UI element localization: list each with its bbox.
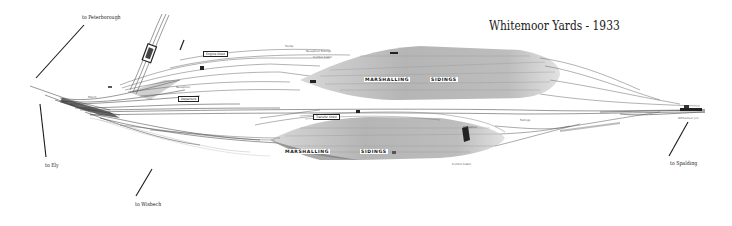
reception-lower-right-label: Reception bbox=[463, 125, 477, 129]
up-yard-east-fan bbox=[540, 58, 700, 106]
wisbech-leader-line bbox=[136, 169, 152, 196]
destination-peterborough: to Peterborough bbox=[82, 14, 121, 20]
track-diagram bbox=[0, 0, 732, 226]
destination-wisbech: to Wisbech bbox=[135, 201, 161, 207]
whitemoor-junction-label: Whitemoor Jcn bbox=[678, 116, 698, 120]
down-sidings-label: SIDINGS bbox=[360, 149, 388, 154]
building-mark bbox=[390, 52, 398, 54]
destination-spalding: to Spalding bbox=[670, 160, 697, 166]
building-mark bbox=[200, 66, 204, 70]
building-mark bbox=[392, 151, 396, 154]
building-mark bbox=[356, 110, 360, 113]
march-station-label: March bbox=[88, 95, 97, 99]
map-title: Whitemoor Yards - 1933 bbox=[489, 18, 620, 33]
control-cabin-lower-label: Control Cabin bbox=[452, 162, 471, 166]
spalding-leader-line bbox=[669, 122, 688, 156]
control-cabin-label: Control Cabin bbox=[313, 55, 332, 59]
up-marshalling-label: MARSHALLING bbox=[364, 77, 410, 82]
ely-leader-line bbox=[40, 104, 46, 157]
signal-box-east bbox=[680, 108, 702, 111]
departure-box: Departure bbox=[178, 96, 199, 102]
up-sidings-label: SIDINGS bbox=[430, 77, 458, 82]
engine-shed-upper: Engine Shed bbox=[203, 51, 228, 57]
hump-label: Hump bbox=[285, 44, 293, 48]
destination-ely: to Ely bbox=[45, 162, 59, 168]
reception-sidings-label: Reception Sidings bbox=[306, 49, 331, 53]
peterborough-leader-line bbox=[36, 25, 84, 78]
building-mark bbox=[310, 80, 316, 83]
up-marshalling-yard bbox=[300, 46, 560, 100]
transfer-shed: Transfer Shed bbox=[313, 114, 340, 120]
down-marshalling-label: MARSHALLING bbox=[284, 149, 330, 154]
down-sidings-small-label: Sidings bbox=[520, 118, 530, 122]
reception-upper-label: Reception bbox=[176, 85, 190, 89]
